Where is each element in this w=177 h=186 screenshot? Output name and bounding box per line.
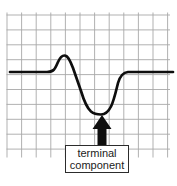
annotation-line-2: component xyxy=(70,159,124,172)
ecg-terminal-component-figure: terminal component xyxy=(0,0,177,186)
annotation-line-1: terminal xyxy=(77,147,116,160)
annotation-label-box: terminal component xyxy=(65,145,129,173)
biphasic-waveform-trace xyxy=(10,56,173,115)
